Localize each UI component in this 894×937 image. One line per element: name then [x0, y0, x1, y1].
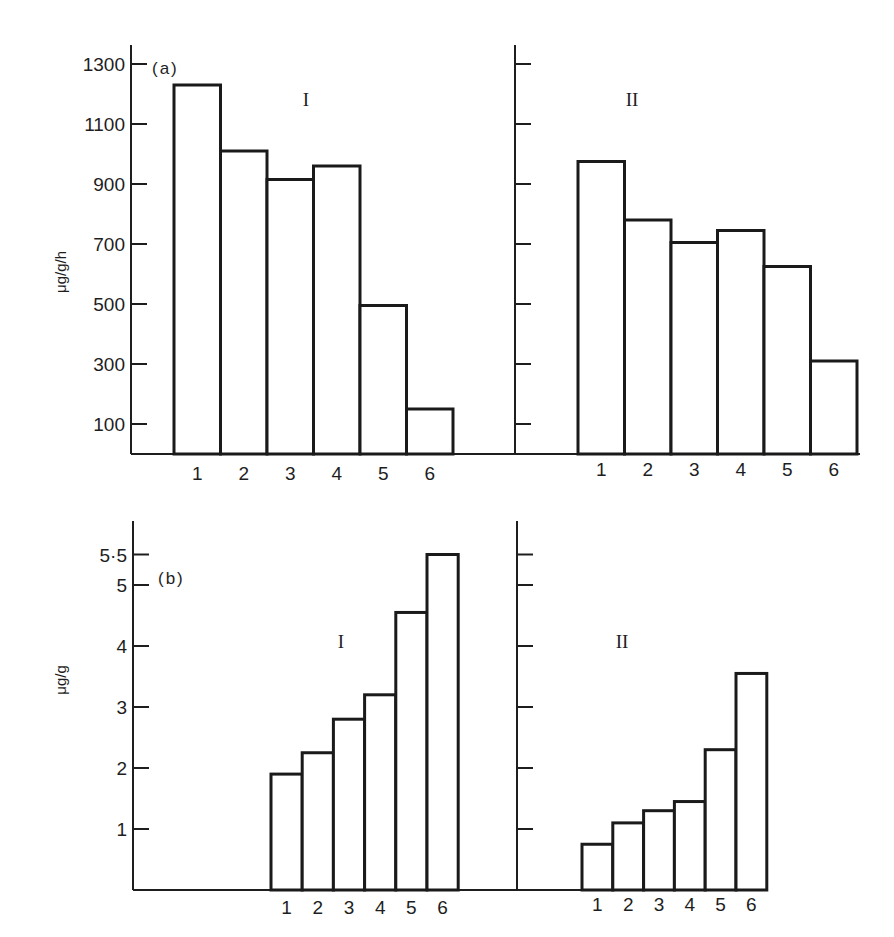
- chart-canvas: (a) (b) μg/g/h μg/g I II I II 1003005007…: [0, 0, 894, 937]
- panel-b-group-I-category-label: 5: [406, 897, 417, 918]
- panel-a-group-I-y-tick-label: 1100: [84, 114, 125, 135]
- panel-a-group-I-label: I: [303, 89, 309, 110]
- panel-b-group-I-bar-4: [365, 695, 396, 890]
- panel-b-group-I-category-label: 6: [437, 897, 448, 918]
- panel-b-group-II-category-label: 5: [715, 894, 726, 915]
- panel-a-group-I-y-tick-label: 700: [93, 234, 125, 255]
- panel-a-group-I-category-label: 6: [424, 463, 435, 484]
- panel-b-group-I-y-tick-label: 3: [116, 697, 127, 718]
- panel-a-group-II-category-label: 6: [828, 459, 839, 480]
- panel-b-group-II-bar-6: [736, 673, 767, 890]
- panel-a-group-I-bar-1: [174, 85, 221, 454]
- panel-a-group-I-category-label: 4: [331, 463, 342, 484]
- panel-b-group-I-bar-3: [333, 719, 364, 890]
- panel-b-tag: (b): [158, 569, 185, 588]
- panel-a-group-I-y-tick-label: 1300: [83, 54, 125, 75]
- panel-b-group-I-y-tick-label: 5: [116, 575, 127, 596]
- panel-a-group-II-bar-2: [625, 220, 672, 454]
- panel-b-group-I-category-label: 4: [375, 897, 386, 918]
- panel-a-tag: (a): [152, 59, 179, 78]
- panel-a-group-I-category-label: 1: [192, 463, 203, 484]
- panel-b-group-I-y-tick-label: 5·5: [100, 545, 127, 566]
- panel-b-group-I-category-label: 2: [313, 897, 324, 918]
- panel-a-group-II-label: II: [626, 89, 639, 110]
- panel-a-group-I-category-label: 5: [378, 463, 389, 484]
- panel-a-group-I-y-tick-label: 900: [93, 174, 125, 195]
- panel-a-group-II-category-label: 5: [782, 459, 793, 480]
- panel-b-group-II-category-label: 1: [592, 894, 603, 915]
- panel-b-y-axis-title: μg/g: [52, 665, 69, 695]
- panel-b-group-II-category-label: 6: [746, 894, 757, 915]
- panel-a-group-I-y-tick-label: 100: [93, 414, 125, 435]
- panel-a-group-I-category-label: 3: [285, 463, 296, 484]
- panel-a-group-II-category-label: 2: [642, 459, 653, 480]
- panel-b-group-II-bar-2: [613, 823, 644, 890]
- panel-b-group-I-bar-1: [271, 774, 302, 890]
- panel-a-group-I-bar-4: [314, 166, 361, 454]
- panel-a-group-II-bar-6: [811, 361, 858, 454]
- panel-b-group-I-y-tick-label: 4: [116, 636, 127, 657]
- panel-b-group-II-category-label: 4: [685, 894, 696, 915]
- panel-b-group-I-y-tick-label: 1: [116, 819, 127, 840]
- panel-b-group-II-label: II: [616, 631, 629, 652]
- panel-a-group-II-category-label: 4: [735, 459, 746, 480]
- panel-b-group-II-category-label: 2: [623, 894, 634, 915]
- panel-b-group-II-bar-5: [705, 750, 736, 890]
- panel-b-group-I-category-label: 1: [281, 897, 292, 918]
- panel-a-group-II-bar-4: [718, 231, 765, 455]
- panel-b-group-I-y-tick-label: 2: [116, 758, 127, 779]
- panel-a-y-axis-title: μg/g/h: [52, 251, 69, 293]
- panel-a-group-I-bar-3: [267, 180, 314, 455]
- panel-a-group-I-bar-5: [360, 306, 407, 455]
- panel-b-group-I-bar-2: [302, 753, 333, 890]
- panel-a-group-I-y-tick-label: 300: [93, 354, 125, 375]
- panel-a-group-II-bar-1: [578, 162, 625, 455]
- panel-b-group-II-bar-4: [674, 802, 705, 890]
- plot-layer: 1003005007009001100130012345612345612345…: [83, 45, 860, 918]
- panel-a-group-I-bar-6: [407, 409, 454, 454]
- panel-b-group-I-label: I: [338, 631, 344, 652]
- panel-a-group-I-category-label: 2: [238, 463, 249, 484]
- panel-a-group-II-bar-3: [671, 243, 718, 455]
- panel-a-group-II-bar-5: [764, 267, 811, 455]
- panel-b-group-II-bar-1: [582, 844, 613, 890]
- panel-b-group-I-bar-5: [396, 612, 427, 890]
- panel-b-group-I-category-label: 3: [344, 897, 355, 918]
- panel-b-group-II-bar-3: [644, 811, 675, 890]
- panel-a-group-I-y-tick-label: 500: [93, 294, 125, 315]
- panel-a-group-II-category-label: 1: [596, 459, 607, 480]
- panel-a-group-II-category-label: 3: [689, 459, 700, 480]
- bar-chart-figure: (a) (b) μg/g/h μg/g I II I II 1003005007…: [0, 0, 894, 937]
- panel-a-group-I-bar-2: [221, 151, 268, 454]
- panel-b-group-I-bar-6: [427, 555, 458, 891]
- panel-b-group-II-category-label: 3: [654, 894, 665, 915]
